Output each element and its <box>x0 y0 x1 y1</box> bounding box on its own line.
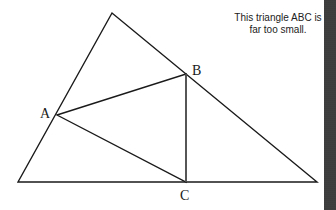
vertex-label-c: C <box>180 188 189 203</box>
diagram-canvas: A B C This triangle ABC is far too small… <box>0 0 336 210</box>
vertex-label-a: A <box>40 106 51 121</box>
caption-line-2: far too small. <box>228 24 328 36</box>
side-bar <box>324 0 336 210</box>
caption-line-1: This triangle ABC is <box>228 12 328 24</box>
caption-text: This triangle ABC is far too small. <box>228 12 328 36</box>
inner-triangle-abc <box>57 74 186 182</box>
outer-triangle <box>18 13 317 182</box>
vertex-label-b: B <box>192 63 201 78</box>
